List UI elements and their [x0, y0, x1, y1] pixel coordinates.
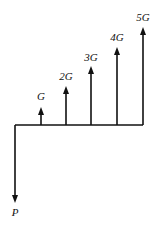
diagram-root: PG2G3G4G5G	[11, 11, 150, 218]
gradient-label: 3G	[83, 51, 98, 63]
arrowhead-up-icon	[140, 27, 146, 35]
gradient-label: 4G	[110, 31, 124, 43]
arrowhead-up-icon	[63, 86, 69, 94]
arrowhead-up-icon	[38, 107, 44, 115]
arrowhead-up-icon	[88, 66, 94, 74]
gradient-label: G	[37, 90, 45, 102]
gradient-label: 2G	[59, 70, 73, 82]
arrowhead-up-icon	[114, 47, 120, 55]
arrowhead-down-icon	[12, 195, 18, 203]
gradient-label: 5G	[136, 11, 150, 23]
present-value-label: P	[11, 206, 19, 218]
cash-flow-diagram: PG2G3G4G5G	[0, 0, 156, 231]
